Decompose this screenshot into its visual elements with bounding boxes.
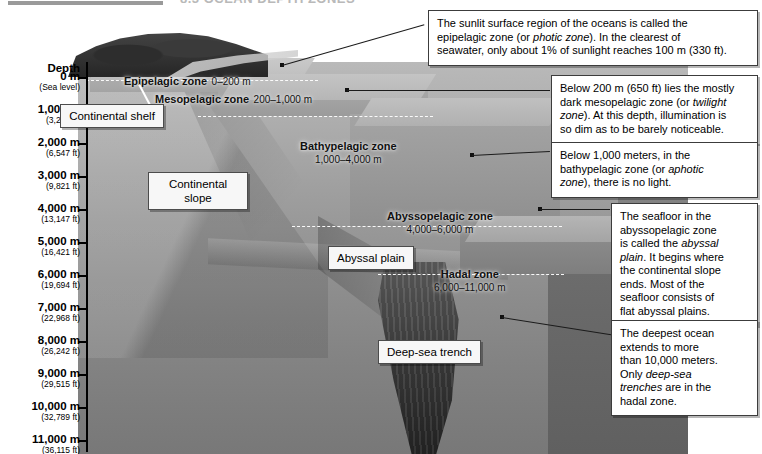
callout-abyssal-plain: Abyssal plain bbox=[328, 246, 414, 270]
note-mesopelagic: Below 200 m (650 ft) lies the mostly dar… bbox=[551, 75, 758, 144]
note-hadal-line2: extends to more bbox=[620, 341, 699, 353]
zone-label-bathypelagic: Bathypelagic zone 1,000–4,000 m bbox=[300, 140, 397, 166]
note-abyssal-line7: seafloor consists of bbox=[620, 291, 714, 303]
header-title: 8.3 OCEAN DEPTH ZONES bbox=[180, 0, 355, 6]
page-header: 8.3 OCEAN DEPTH ZONES bbox=[0, 0, 762, 8]
note-bathypelagic-line1: Below 1,000 meters, in the bbox=[560, 149, 690, 161]
axis-label-10000: 10,000 m (32,789 ft) bbox=[31, 400, 80, 422]
note-bathypelagic-emphasis-1: aphotic bbox=[668, 163, 703, 175]
zone-label-hadal: Hadal zone 6,000–11,000 m bbox=[434, 268, 506, 294]
callout-deep-sea-trench: Deep-sea trench bbox=[378, 340, 481, 364]
connector-line-abyssal bbox=[540, 209, 610, 210]
callout-continental-shelf: Continental shelf bbox=[60, 104, 164, 128]
note-abyssal-line5: the continental slope bbox=[620, 264, 721, 276]
axis-label-4000: 4,000 m (13,147 ft) bbox=[38, 202, 80, 224]
note-epipelagic-line2a: epipelagic zone (or bbox=[437, 31, 533, 43]
boundary-dash-mesopelagic bbox=[198, 116, 433, 117]
note-abyssal-line2: abyssopelagic zone bbox=[620, 224, 717, 236]
zone-label-mesopelagic: Mesopelagic zone 200–1,000 m bbox=[155, 89, 312, 107]
note-hadal-line6: hadal zone. bbox=[620, 395, 677, 407]
axis-label-11000: 11,000 m (36,115 ft) bbox=[32, 433, 80, 454]
note-hadal-emphasis-1: deep-sea bbox=[646, 368, 692, 380]
note-abyssal-line6: ends. Most of the bbox=[620, 278, 704, 290]
continent-landmass bbox=[68, 22, 268, 77]
note-abyssal-emphasis-2: plain bbox=[620, 251, 643, 263]
axis-label-6000: 6,000 m (19,694 ft) bbox=[38, 268, 80, 290]
note-mesopelagic-line3b: ). At this depth, illumination is bbox=[584, 109, 726, 121]
note-mesopelagic-emphasis-2: zone bbox=[560, 109, 584, 121]
axis-label-5000: 5,000 m (16,421 ft) bbox=[38, 235, 80, 257]
axis-label-9000: 9,000 m (29,515 ft) bbox=[38, 367, 80, 389]
note-mesopelagic-line2a: dark mesopelagic zone (or bbox=[560, 96, 693, 108]
axis-label-0: 0 m (Sea level) bbox=[39, 70, 80, 92]
note-abyssal-line4b: . It begins where bbox=[643, 251, 724, 263]
note-bathypelagic-line3b: ), there is no light. bbox=[584, 176, 671, 188]
note-hadal-line4a: Only bbox=[620, 368, 646, 380]
note-epipelagic-line2b: ). In the clearest of bbox=[589, 31, 680, 43]
callout-continental-slope: Continental slope bbox=[148, 172, 248, 210]
note-bathypelagic: Below 1,000 meters, in the bathypelagic … bbox=[551, 142, 758, 198]
note-mesopelagic-emphasis-1: twilight bbox=[693, 96, 727, 108]
note-hadal-zone: The deepest ocean extends to more than 1… bbox=[611, 320, 758, 416]
axis-label-3000: 3,000 m (9,821 ft) bbox=[38, 169, 80, 191]
note-abyssal-plain: The seafloor in the abyssopelagic zone i… bbox=[611, 203, 758, 326]
axis-label-2000: 2,000 m (6,547 ft) bbox=[38, 136, 80, 158]
note-abyssal-line1: The seafloor in the bbox=[620, 210, 711, 222]
note-mesopelagic-line1: Below 200 m (650 ft) lies the mostly bbox=[560, 82, 734, 94]
note-hadal-line5b: are in the bbox=[662, 381, 711, 393]
note-epipelagic: The sunlit surface region of the oceans … bbox=[428, 10, 758, 66]
note-hadal-line3: than 10,000 meters. bbox=[620, 354, 718, 366]
axis-label-8000: 8,000 m (26,242 ft) bbox=[38, 334, 80, 356]
note-abyssal-line3a: is called the bbox=[620, 237, 681, 249]
note-abyssal-line8: flat abyssal plains. bbox=[620, 305, 710, 317]
depth-axis: Depth 0 m (Sea level) 1,000 m (3,274 ft)… bbox=[0, 10, 92, 454]
note-epipelagic-line3: seawater, only about 1% of sunlight reac… bbox=[437, 44, 727, 56]
zone-label-abyssopelagic: Abyssopelagic zone 4,000–6,000 m bbox=[387, 210, 493, 236]
axis-label-7000: 7,000 m (22,968 ft) bbox=[38, 301, 80, 323]
note-bathypelagic-line2a: bathypelagic zone (or bbox=[560, 163, 668, 175]
note-epipelagic-emphasis: photic zone bbox=[533, 31, 589, 43]
note-bathypelagic-emphasis-2: zone bbox=[560, 176, 584, 188]
header-rule bbox=[8, 1, 163, 5]
note-mesopelagic-line4: so dim as to be barely noticeable. bbox=[560, 123, 724, 135]
note-hadal-emphasis-2: trenches bbox=[620, 381, 662, 393]
bathypelagic-prism-top bbox=[354, 98, 566, 126]
note-epipelagic-line1: The sunlit surface region of the oceans … bbox=[437, 17, 688, 29]
note-hadal-line1: The deepest ocean bbox=[620, 327, 714, 339]
note-abyssal-emphasis-1: abyssal bbox=[681, 237, 718, 249]
diagram-canvas: 8.3 OCEAN DEPTH ZONES Depth bbox=[0, 0, 762, 454]
connector-line-mesopelagic bbox=[347, 90, 550, 91]
zone-label-epipelagic: Epipelagic zone 0–200 m bbox=[124, 71, 251, 89]
